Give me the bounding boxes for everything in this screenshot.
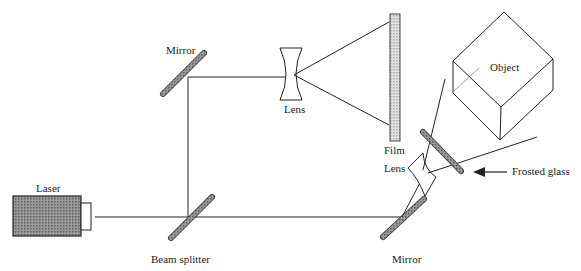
label-beam-splitter: Beam splitter	[151, 254, 210, 265]
film	[390, 14, 400, 141]
frosted-glass	[423, 132, 461, 171]
frosted-glass-arrow	[473, 167, 507, 177]
laser	[13, 196, 91, 236]
label-mirror-top: Mirror	[166, 45, 195, 56]
lens-bottom	[408, 153, 436, 196]
mirror-top	[163, 53, 204, 94]
label-object: Object	[490, 62, 519, 73]
ray-lower	[294, 75, 389, 125]
label-lens-top: Lens	[284, 104, 305, 115]
holography-diagram	[0, 0, 581, 271]
label-lens-bottom: Lens	[384, 163, 405, 174]
label-frosted-glass: Frosted glass	[512, 166, 570, 177]
ray-diverge-up	[423, 79, 445, 170]
lens-top	[280, 48, 302, 100]
label-film: Film	[384, 145, 405, 156]
object-cube	[453, 12, 553, 140]
label-mirror-bottom: Mirror	[392, 254, 421, 265]
mirror-bottom	[383, 199, 424, 237]
label-laser: Laser	[36, 183, 60, 194]
ray-upper	[294, 22, 389, 75]
